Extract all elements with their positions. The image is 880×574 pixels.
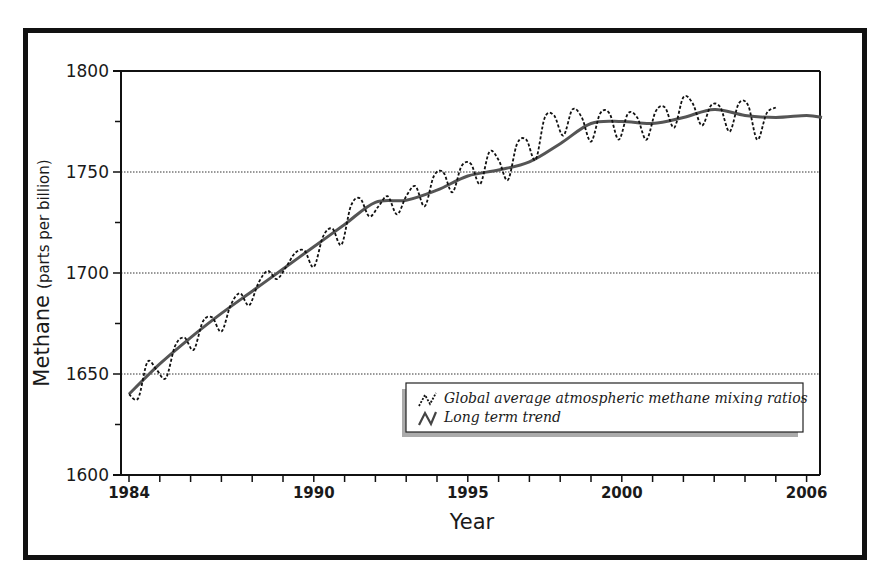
data-line [129,96,776,400]
x-tick-label: 1990 [293,484,335,502]
methane-chart: 16001650170017501800 1984199019952000200… [0,0,880,574]
legend-label-data: Global average atmospheric methane mixin… [444,390,808,406]
legend: Global average atmospheric methane mixin… [402,383,808,437]
grid-lines [121,172,820,374]
legend-label-trend: Long term trend [443,409,561,425]
x-axis-title: Year [449,510,495,534]
y-tick-label: 1700 [66,263,109,283]
y-tick-label: 1600 [66,465,109,485]
y-tick-label: 1650 [66,364,109,384]
y-tick-label: 1800 [66,61,109,81]
x-tick-label: 2000 [601,484,643,502]
y-axis-title: Methane(parts per billion) [30,159,54,386]
x-tick-label: 1995 [447,484,489,502]
x-axis-ticks: 19841990199520002006 [108,475,827,502]
x-tick-label: 1984 [108,484,150,502]
y-tick-label: 1750 [66,162,109,182]
trend-line [129,109,822,394]
x-tick-label: 2006 [786,484,828,502]
y-axis-ticks: 16001650170017501800 [66,61,121,485]
